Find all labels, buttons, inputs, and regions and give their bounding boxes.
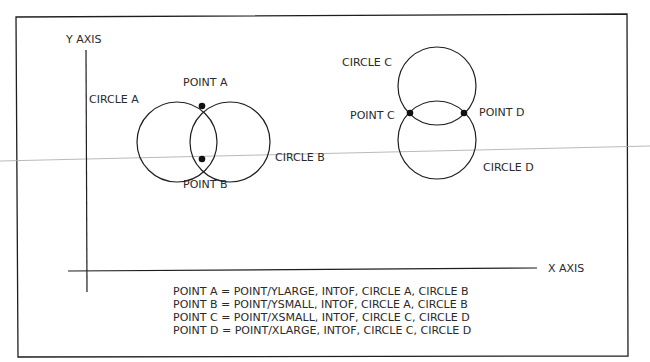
x-axis-line xyxy=(68,268,537,271)
point-c-label: POINT C xyxy=(350,109,395,122)
x-axis-label: X AXIS xyxy=(548,262,584,275)
diagram-canvas: Y AXIS X AXIS CIRCLE A CIRCLE B CIRCLE C… xyxy=(0,0,650,362)
point-d-marker xyxy=(461,110,468,117)
point-a-label: POINT A xyxy=(183,76,228,89)
circle-a xyxy=(137,102,217,182)
y-axis-line xyxy=(86,50,87,292)
circle-d-label: CIRCLE D xyxy=(483,161,534,174)
y-axis-label: Y AXIS xyxy=(65,33,102,46)
circle-a-label: CIRCLE A xyxy=(89,93,139,106)
definition-line: POINT D = POINT/XLARGE, INTOF, CIRCLE C,… xyxy=(173,324,471,337)
definition-line: POINT A = POINT/YLARGE, INTOF, CIRCLE A,… xyxy=(173,285,468,298)
point-d-label: POINT D xyxy=(479,106,524,119)
point-b-label: POINT B xyxy=(183,178,228,191)
point-c-marker xyxy=(407,110,414,117)
scan-artifact-line xyxy=(0,146,650,161)
definition-line: POINT C = POINT/XSMALL, INTOF, CIRCLE C,… xyxy=(173,311,470,324)
circle-b-label: CIRCLE B xyxy=(275,151,325,164)
point-a-marker xyxy=(199,103,206,110)
definition-line: POINT B = POINT/YSMALL, INTOF, CIRCLE A,… xyxy=(173,298,468,311)
circle-c-label: CIRCLE C xyxy=(342,56,392,69)
point-b-marker xyxy=(199,156,206,163)
circle-b xyxy=(190,102,270,182)
